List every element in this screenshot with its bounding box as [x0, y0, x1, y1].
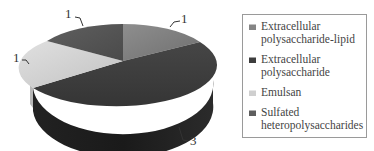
legend-label: heteropolysaccharides — [261, 119, 363, 131]
legend-label: Emulsan — [261, 86, 301, 98]
legend-swatch-icon — [249, 110, 256, 116]
data-label-polysaccharide: 3 — [190, 133, 197, 148]
legend-label: Sulfated — [261, 106, 299, 118]
pie-chart: 1 3 1 1 — [0, 0, 235, 151]
legend-label: Extracellular — [261, 20, 320, 32]
legend-item[interactable]: Extracellular polysaccharide-lipid — [249, 20, 366, 46]
data-label-polysaccharide-lipid: 1 — [181, 11, 188, 26]
data-label-emulsan: 1 — [13, 50, 20, 65]
legend-label: polysaccharide-lipid — [261, 33, 355, 45]
legend-swatch-icon — [249, 24, 256, 30]
legend-label: Extracellular — [261, 53, 320, 65]
data-label-sulfated: 1 — [65, 6, 72, 21]
legend-item[interactable]: Extracellular polysaccharide — [249, 53, 366, 79]
legend-label: polysaccharide — [261, 66, 330, 78]
legend-item[interactable]: Emulsan — [249, 86, 366, 99]
legend-swatch-icon — [249, 57, 256, 63]
legend-swatch-icon — [249, 90, 256, 96]
legend-item[interactable]: Sulfated heteropolysaccharides — [249, 106, 366, 132]
chart-legend: Extracellular polysaccharide-lipid Extra… — [242, 14, 367, 138]
